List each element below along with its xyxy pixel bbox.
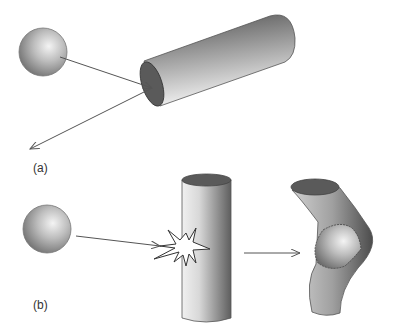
deformed-cylinder-top — [291, 179, 339, 195]
sphere-b — [23, 205, 71, 253]
sphere-a — [19, 28, 67, 76]
panel-b-label: (b) — [33, 298, 48, 312]
panel-a — [19, 15, 295, 149]
reflected-arrow-a — [30, 88, 152, 149]
incoming-arrow-a — [60, 57, 152, 88]
panel-a-label: (a) — [33, 161, 48, 175]
incoming-arrow-b — [76, 236, 160, 246]
panel-b — [23, 174, 373, 322]
diagram-canvas — [0, 0, 403, 335]
vertical-cylinder-top — [182, 174, 231, 186]
horizontal-cylinder — [144, 15, 295, 106]
